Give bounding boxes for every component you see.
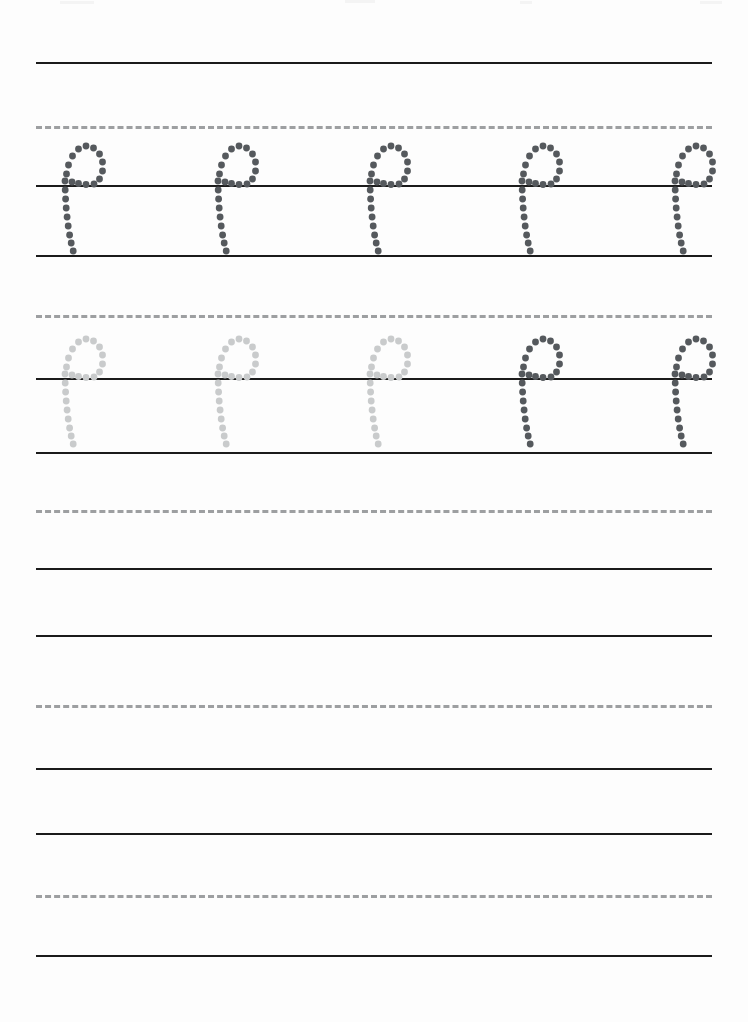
scan-speckle bbox=[60, 1, 94, 4]
scan-speckle bbox=[520, 1, 532, 4]
rule-3-midline bbox=[36, 510, 712, 513]
rule-3-baseline bbox=[36, 568, 712, 570]
rule-2-descender bbox=[36, 452, 712, 454]
rule-5-midline bbox=[36, 895, 712, 898]
rule-1-descender bbox=[36, 255, 712, 257]
worksheet-page bbox=[0, 0, 748, 1022]
rule-2-midline bbox=[36, 315, 712, 318]
scan-speckle bbox=[345, 0, 375, 3]
rule-1-midline bbox=[36, 126, 712, 129]
rule-5-baseline bbox=[36, 955, 712, 957]
rule-4-midline bbox=[36, 705, 712, 708]
rule-4-descender bbox=[36, 833, 712, 835]
rule-3-descender bbox=[36, 635, 712, 637]
scan-speckle bbox=[700, 1, 722, 4]
rule-4-baseline bbox=[36, 768, 712, 770]
rule-1-top bbox=[36, 62, 712, 64]
